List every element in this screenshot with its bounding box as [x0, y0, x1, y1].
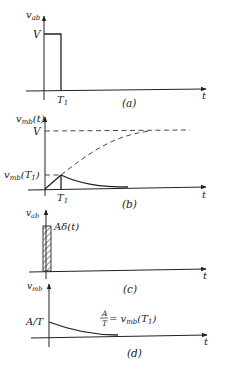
t-axis-a [26, 89, 206, 91]
rect-pulse [44, 34, 61, 91]
y-label-d: vmb [27, 281, 42, 293]
caption-a: (a) [122, 97, 136, 109]
charging-segment [45, 175, 61, 189]
eq-rhs: = vmb(T1) [109, 313, 156, 326]
impulse-rect [43, 226, 51, 271]
t-label-c: t [203, 270, 208, 281]
t-axis-c [29, 269, 206, 272]
tick-label-a: T1 [57, 94, 68, 107]
tick-label-b: T1 [57, 192, 68, 205]
equation-d: A T = vmb(T1) [100, 309, 156, 328]
eq-numerator: A [101, 309, 108, 318]
level-label-d: A/T [25, 316, 45, 327]
caption-d: (d) [127, 347, 142, 359]
eq-denominator: T [102, 319, 108, 328]
level-label-b: V [33, 125, 42, 137]
charging-curve-continued [61, 131, 150, 175]
t-label-a: t [202, 90, 207, 101]
y-label-c: vab [26, 208, 39, 220]
v-asymptote [45, 130, 190, 131]
panel-b: vmb(t) V vmb(T1) T1 t (b) [4, 113, 207, 210]
level-label-a: V [33, 28, 42, 40]
t-axis-d [31, 335, 207, 338]
t-label-d: t [204, 336, 209, 347]
caption-c: (c) [123, 283, 137, 295]
panel-a: vab V T1 t (a) [26, 9, 207, 109]
panel-c: vab Aδ(t) t (c) [26, 208, 208, 295]
caption-b: (b) [122, 198, 137, 210]
decay-curve-b [61, 175, 128, 187]
y-label-a: vab [26, 9, 41, 22]
decay-curve-d [49, 322, 118, 335]
impulse-label: Aδ(t) [53, 221, 79, 232]
figure: vab V T1 t (a) vmb(t) V vmb(T1) T1 t (b)… [0, 0, 225, 369]
t-label-b: t [202, 189, 207, 200]
panel-d: vmb A/T A T = vmb(T1) t (d) [25, 281, 209, 359]
mid-label-b: vmb(T1) [4, 169, 40, 182]
